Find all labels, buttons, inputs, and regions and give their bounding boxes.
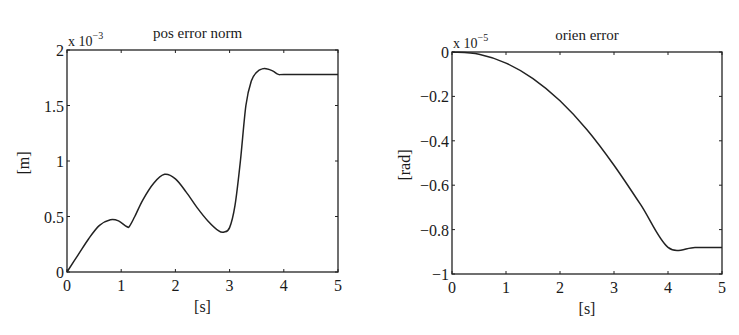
x-tick-label: 5 [334,277,342,294]
y-tick-label: 0 [56,264,64,281]
y-axis-label: [m] [15,151,32,174]
x-tick-label: 3 [610,279,618,296]
x-tick-label: 5 [718,279,726,296]
y-tick-label: −0.6 [420,177,449,194]
axes-box [67,50,338,272]
x-tick-label: 4 [280,277,288,294]
y-tick-label: 1 [56,153,64,170]
y-tick-label: −1 [432,266,449,283]
y-tick-label: −0.8 [420,222,449,239]
chart-title: orien error [555,27,619,43]
y-axis-label: [rad] [396,149,413,180]
y-multiplier: x 10−3 [68,30,103,49]
y-tick-label: 0.5 [44,209,64,226]
x-tick-label: 3 [226,277,234,294]
chart-title: pos error norm [153,25,242,41]
x-tick-label: 2 [171,277,179,294]
x-tick-label: 0 [63,277,71,294]
y-tick-label: 2 [56,42,64,59]
figure: 01234500.511.52pos error normx 10−3[s][m… [0,0,739,335]
chart-1: 01234500.511.52pos error normx 10−3[s][m… [15,25,342,315]
x-axis-label: [s] [194,298,211,315]
axes-box [452,52,722,274]
y-tick-label: −0.2 [420,88,449,105]
x-tick-label: 0 [448,279,456,296]
series-line [452,52,722,251]
y-tick-label: −0.4 [420,133,449,150]
chart-2: 0123450−0.2−0.4−0.6−0.8−1orien errorx 10… [396,27,726,317]
x-axis-label: [s] [579,300,596,317]
y-tick-label: 0 [441,44,449,61]
y-tick-label: 1.5 [44,98,64,115]
x-tick-label: 1 [117,277,125,294]
x-tick-label: 2 [556,279,564,296]
x-tick-label: 1 [502,279,510,296]
series-line [67,69,338,272]
y-multiplier: x 10−5 [453,32,488,51]
x-tick-label: 4 [664,279,672,296]
